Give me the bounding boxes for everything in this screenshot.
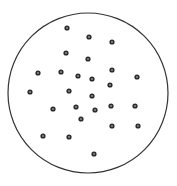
- dot-center: [29, 91, 31, 93]
- dot-center: [77, 75, 79, 77]
- dot-center: [111, 69, 113, 71]
- dot-center: [42, 135, 44, 137]
- dot-center: [37, 72, 39, 74]
- dot-center: [68, 90, 70, 92]
- dot-center: [60, 71, 62, 73]
- dot-center: [66, 27, 68, 29]
- dot-center: [91, 78, 93, 80]
- dot-center: [111, 125, 113, 127]
- dot-center: [68, 136, 70, 138]
- dot-center: [75, 106, 77, 108]
- dot-center: [110, 105, 112, 107]
- dot-center: [65, 52, 67, 54]
- dots-in-circle-diagram: [0, 0, 177, 186]
- dot-center: [109, 84, 111, 86]
- dot-center: [93, 153, 95, 155]
- dot-center: [87, 58, 89, 60]
- dot-center: [111, 41, 113, 43]
- dot-center: [80, 118, 82, 120]
- dot-center: [52, 108, 54, 110]
- dot-center: [88, 36, 90, 38]
- dot-center: [134, 105, 136, 107]
- dot-center: [136, 76, 138, 78]
- dot-center: [91, 95, 93, 97]
- dot-center: [137, 125, 139, 127]
- dot-center: [94, 109, 96, 111]
